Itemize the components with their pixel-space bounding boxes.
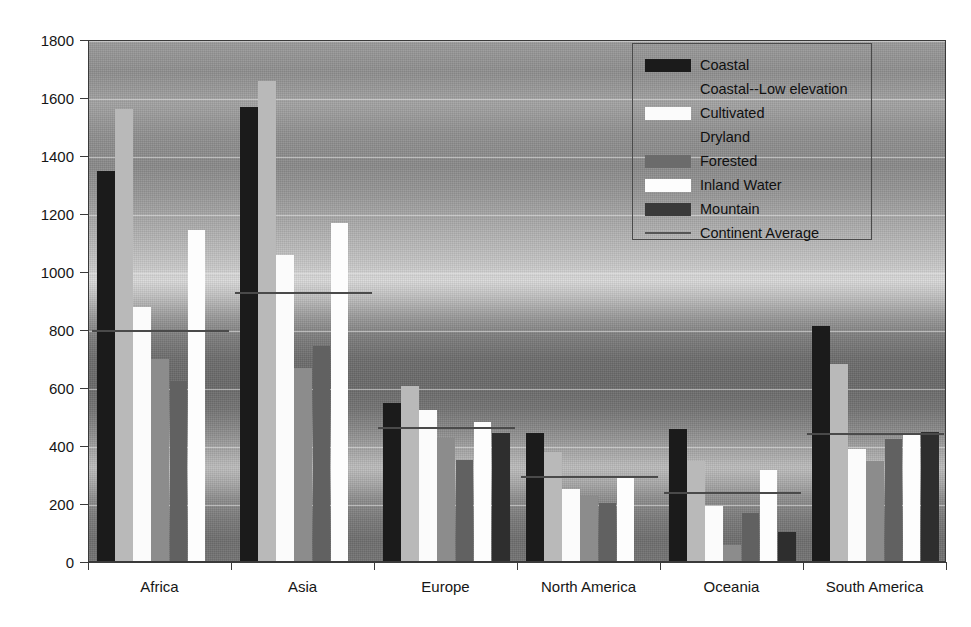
- bar: [240, 107, 258, 561]
- y-axis-tick-label: 1600: [41, 90, 74, 107]
- y-axis-tick: [80, 156, 88, 157]
- legend-item: Coastal: [645, 53, 861, 77]
- bar: [848, 449, 866, 561]
- legend-item-label: Cultivated: [700, 106, 764, 121]
- continent-average-line: [807, 433, 944, 435]
- bar-chart: 020040060080010001200140016001800 Coasta…: [0, 0, 971, 627]
- legend-swatch-icon: [645, 131, 691, 144]
- y-axis-tick-label: 1800: [41, 32, 74, 49]
- x-axis-tick: [88, 562, 89, 570]
- bar: [599, 503, 617, 561]
- continent-average-line: [521, 476, 658, 478]
- legend-swatch-icon: [645, 203, 691, 216]
- y-axis-tick-label: 800: [49, 322, 74, 339]
- y-axis-tick: [80, 446, 88, 447]
- bar: [294, 368, 312, 561]
- legend-item-label: Coastal--Low elevation: [700, 82, 848, 97]
- bar: [778, 532, 796, 561]
- y-axis-tick: [80, 214, 88, 215]
- legend-swatch-icon: [645, 59, 691, 72]
- bar: [705, 506, 723, 561]
- legend-swatch-icon: [645, 155, 691, 168]
- bar: [580, 496, 598, 561]
- bar: [669, 429, 687, 561]
- legend-item-label: Continent Average: [700, 226, 819, 241]
- bar: [830, 364, 848, 561]
- y-axis-line: [88, 40, 89, 562]
- legend: CoastalCoastal--Low elevationCultivatedD…: [632, 43, 872, 240]
- bar: [885, 439, 903, 561]
- legend-item: Forested: [645, 149, 861, 173]
- bar: [921, 432, 939, 561]
- x-axis-category-label: Africa: [140, 578, 178, 595]
- y-axis-tick: [80, 562, 88, 563]
- plot-area: CoastalCoastal--Low elevationCultivatedD…: [88, 40, 946, 562]
- y-axis-tick-label: 0: [66, 554, 74, 571]
- continent-average-line: [378, 427, 515, 429]
- bar: [419, 410, 437, 561]
- legend-item-label: Dryland: [700, 130, 750, 145]
- gridline: [89, 273, 945, 274]
- bar: [133, 307, 151, 561]
- y-axis-tick-label: 200: [49, 496, 74, 513]
- legend-swatch-icon: [645, 83, 691, 96]
- y-axis-tick-label: 600: [49, 380, 74, 397]
- bar: [115, 109, 133, 561]
- x-axis-category-label: Oceania: [704, 578, 760, 595]
- bar: [687, 461, 705, 561]
- legend-item-label: Inland Water: [700, 178, 782, 193]
- y-axis-tick-label: 1000: [41, 264, 74, 281]
- bar: [742, 513, 760, 561]
- x-axis-category-label: Europe: [421, 578, 469, 595]
- x-axis-category-label: Asia: [288, 578, 317, 595]
- y-axis-tick-label: 400: [49, 438, 74, 455]
- legend-swatch-icon: [645, 232, 691, 234]
- legend-swatch-icon: [645, 179, 691, 192]
- bar: [544, 452, 562, 561]
- bar: [401, 386, 419, 561]
- bar: [313, 346, 331, 561]
- bar: [526, 433, 544, 561]
- gridline: [89, 41, 945, 42]
- bar: [492, 433, 510, 561]
- x-axis-tick: [374, 562, 375, 570]
- legend-item: Cultivated: [645, 101, 861, 125]
- bar: [903, 435, 921, 561]
- continent-average-line: [664, 492, 801, 494]
- bar: [812, 326, 830, 561]
- bar: [617, 477, 635, 561]
- x-axis-category-label: North America: [541, 578, 636, 595]
- y-axis-tick: [80, 504, 88, 505]
- bar: [170, 381, 188, 561]
- legend-item-label: Coastal: [700, 58, 749, 73]
- bar: [456, 460, 474, 562]
- bar: [276, 255, 294, 561]
- legend-item-label: Forested: [700, 154, 757, 169]
- bar: [151, 359, 169, 561]
- legend-item: Mountain: [645, 197, 861, 221]
- x-axis-tick: [660, 562, 661, 570]
- y-axis-tick: [80, 40, 88, 41]
- x-axis-category-label: South America: [826, 578, 924, 595]
- x-axis-tick: [231, 562, 232, 570]
- legend-item: Inland Water: [645, 173, 861, 197]
- x-axis-tick: [946, 562, 947, 570]
- continent-average-line: [235, 292, 372, 294]
- legend-item: Dryland: [645, 125, 861, 149]
- y-axis-tick: [80, 388, 88, 389]
- bar: [97, 171, 115, 561]
- x-axis-tick: [803, 562, 804, 570]
- y-axis-tick-label: 1400: [41, 148, 74, 165]
- y-axis-tick-label: 1200: [41, 206, 74, 223]
- x-axis-tick: [517, 562, 518, 570]
- bar: [760, 470, 778, 561]
- y-axis-tick: [80, 98, 88, 99]
- bar: [331, 223, 349, 561]
- bar: [188, 230, 206, 561]
- bar: [437, 438, 455, 561]
- y-axis-tick: [80, 272, 88, 273]
- legend-item: Coastal--Low elevation: [645, 77, 861, 101]
- legend-item: Continent Average: [645, 221, 861, 245]
- bar: [562, 489, 580, 562]
- bar: [723, 545, 741, 561]
